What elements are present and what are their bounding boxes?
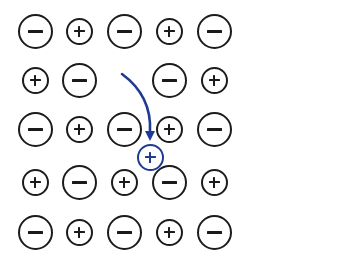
minus-sign-icon [72, 175, 87, 190]
glyph-horizontal-bar [207, 128, 222, 131]
glyph-vertical-bar [168, 124, 170, 135]
glyph-horizontal-bar [28, 30, 43, 33]
plus-sign-icon [74, 26, 85, 37]
glyph-horizontal-bar [207, 30, 222, 33]
glyph-horizontal-bar [162, 181, 177, 184]
negative-ion-r3c1 [18, 112, 53, 147]
positive-ion-r3c2 [66, 116, 93, 143]
positive-ion-r5c4 [156, 219, 183, 246]
minus-sign-icon [162, 73, 177, 88]
positive-ion-r2c1 [22, 67, 49, 94]
minus-sign-icon [117, 122, 132, 137]
minus-sign-icon [207, 24, 222, 39]
migrating-positive-ion [137, 144, 164, 171]
negative-ion-r2c4 [152, 63, 187, 98]
positive-ion-r1c2 [66, 18, 93, 45]
plus-sign-icon [145, 152, 156, 163]
minus-sign-icon [207, 225, 222, 240]
negative-ion-r2c2 [62, 63, 97, 98]
positive-ion-r4c3 [111, 169, 138, 196]
glyph-vertical-bar [78, 227, 80, 238]
positive-ion-r4c5 [201, 169, 228, 196]
plus-sign-icon [164, 26, 175, 37]
minus-sign-icon [117, 225, 132, 240]
negative-ion-r4c2 [62, 165, 97, 200]
negative-ion-r3c3 [107, 112, 142, 147]
glyph-vertical-bar [78, 26, 80, 37]
glyph-vertical-bar [213, 75, 215, 86]
plus-sign-icon [30, 75, 41, 86]
glyph-horizontal-bar [162, 79, 177, 82]
glyph-vertical-bar [213, 177, 215, 188]
positive-ion-r2c5 [201, 67, 228, 94]
glyph-horizontal-bar [117, 30, 132, 33]
minus-sign-icon [28, 225, 43, 240]
negative-ion-r5c1 [18, 215, 53, 250]
positive-ion-r4c1 [22, 169, 49, 196]
glyph-horizontal-bar [28, 128, 43, 131]
minus-sign-icon [28, 24, 43, 39]
negative-ion-r5c3 [107, 215, 142, 250]
glyph-horizontal-bar [117, 231, 132, 234]
plus-sign-icon [209, 75, 220, 86]
negative-ion-r1c1 [18, 14, 53, 49]
plus-sign-icon [164, 227, 175, 238]
lattice-vacancy-r2c3 [110, 66, 138, 94]
glyph-horizontal-bar [207, 231, 222, 234]
minus-sign-icon [117, 24, 132, 39]
glyph-vertical-bar [168, 26, 170, 37]
glyph-vertical-bar [168, 227, 170, 238]
glyph-horizontal-bar [72, 79, 87, 82]
glyph-vertical-bar [123, 177, 125, 188]
negative-ion-r1c3 [107, 14, 142, 49]
minus-sign-icon [72, 73, 87, 88]
positive-ion-r3c4 [156, 116, 183, 143]
negative-ion-r5c5 [197, 215, 232, 250]
glyph-vertical-bar [34, 75, 36, 86]
migration-arrow-head [145, 131, 155, 141]
glyph-vertical-bar [34, 177, 36, 188]
plus-sign-icon [209, 177, 220, 188]
negative-ion-r1c5 [197, 14, 232, 49]
plus-sign-icon [164, 124, 175, 135]
glyph-vertical-bar [78, 124, 80, 135]
negative-ion-r4c4 [152, 165, 187, 200]
glyph-horizontal-bar [72, 181, 87, 184]
plus-sign-icon [74, 124, 85, 135]
minus-sign-icon [28, 122, 43, 137]
ionic-lattice-figure [0, 0, 346, 262]
plus-sign-icon [74, 227, 85, 238]
plus-sign-icon [119, 177, 130, 188]
glyph-horizontal-bar [117, 128, 132, 131]
positive-ion-r1c4 [156, 18, 183, 45]
negative-ion-r3c5 [197, 112, 232, 147]
positive-ion-r5c2 [66, 219, 93, 246]
glyph-horizontal-bar [28, 231, 43, 234]
glyph-vertical-bar [149, 152, 151, 163]
plus-sign-icon [30, 177, 41, 188]
minus-sign-icon [162, 175, 177, 190]
minus-sign-icon [207, 122, 222, 137]
